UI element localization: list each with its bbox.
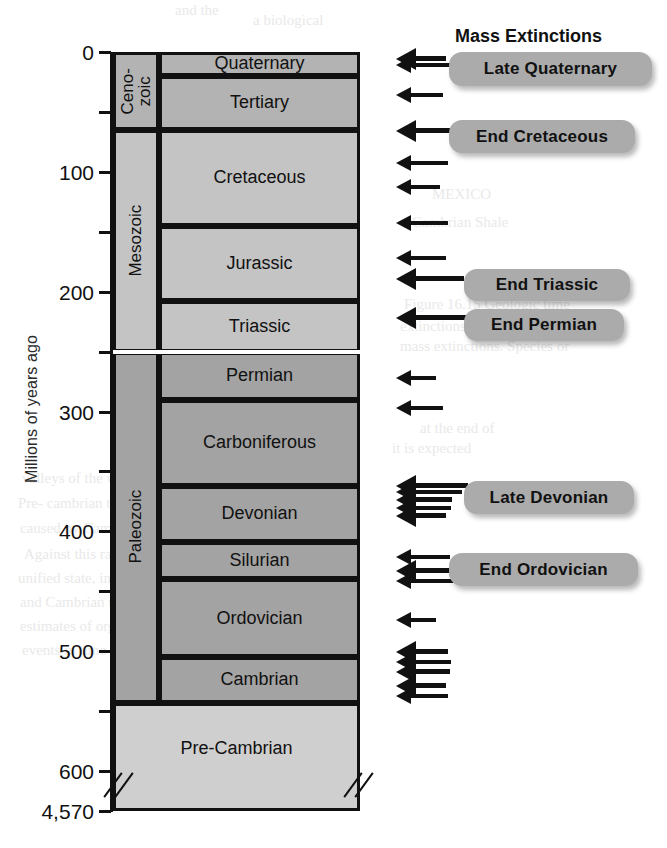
arrow-shaft	[414, 649, 448, 654]
page-title: Mass Extinctions	[455, 26, 602, 47]
arrow-head-icon	[396, 307, 416, 329]
tick-label: 400	[24, 520, 94, 544]
arrow-shaft	[409, 161, 448, 165]
period-cell: Triassic	[159, 301, 360, 351]
period-cell: Quaternary	[159, 52, 360, 76]
arrow-shaft	[409, 694, 448, 698]
tick-mark	[99, 710, 111, 713]
period-cell: Silurian	[159, 542, 360, 579]
period-cell: Cretaceous	[159, 130, 360, 226]
tick-mark	[99, 530, 111, 533]
tick-mark	[99, 351, 111, 354]
tick-label: 200	[24, 281, 94, 305]
extinction-label-pill: End Permian	[464, 309, 624, 341]
arrow-shaft	[409, 618, 436, 622]
era-label: Paleozoic	[127, 490, 144, 564]
tick-mark	[99, 810, 111, 813]
tick-label: 600	[24, 760, 94, 784]
period-cell: Tertiary	[159, 76, 360, 130]
arrow-shaft	[414, 276, 464, 281]
era-label: Ceno-zoic	[119, 68, 154, 114]
arrow-shaft	[409, 490, 462, 494]
period-cell: Carboniferous	[159, 400, 360, 486]
permian-triassic-gap	[113, 350, 360, 354]
arrow-shaft	[414, 56, 446, 61]
arrow-shaft	[409, 406, 443, 410]
arrow-head-icon	[396, 120, 416, 142]
era-cell: Paleozoic	[113, 352, 159, 703]
era-cell: Mesozoic	[113, 130, 159, 352]
arrow-shaft	[414, 669, 450, 674]
arrow-shaft	[409, 185, 440, 189]
arrow-shaft	[414, 683, 446, 688]
tick-mark	[99, 231, 111, 234]
tick-label: 100	[24, 161, 94, 185]
arrow-shaft	[409, 579, 454, 583]
period-cell: Jurassic	[159, 226, 360, 301]
tick-label: 500	[24, 640, 94, 664]
arrow-shaft	[409, 376, 436, 380]
extinction-label-pill: End Ordovician	[449, 553, 638, 586]
arrow-head-icon	[396, 268, 416, 290]
arrow-shaft	[409, 256, 446, 260]
arrow-shaft	[414, 497, 452, 502]
tick-label: 4,570	[16, 800, 94, 824]
tick-mark	[99, 590, 111, 593]
tick-mark	[99, 411, 111, 414]
tick-mark	[99, 770, 111, 773]
arrow-shaft	[414, 483, 468, 488]
tick-mark	[99, 51, 111, 54]
tick-mark	[99, 650, 111, 653]
arrow-head-icon	[396, 505, 416, 527]
period-cell: Ordovician	[159, 579, 360, 657]
tick-label: 0	[24, 41, 94, 65]
extinction-label-pill: End Triassic	[464, 269, 630, 301]
extinction-label-pill: Late Devonian	[464, 481, 634, 514]
precambrian-cell: Pre-Cambrian	[113, 703, 360, 811]
arrow-shaft	[409, 93, 443, 97]
extinction-label-pill: Late Quaternary	[449, 52, 652, 86]
era-cell: Ceno-zoic	[113, 52, 159, 130]
arrow-shaft	[414, 513, 446, 518]
tick-mark	[99, 291, 111, 294]
arrow-shaft	[409, 221, 448, 225]
tick-mark	[99, 111, 111, 114]
geologic-time-scale-figure: Mass Extinctions Millions of years ago 0…	[0, 0, 667, 848]
era-label: Mesozoic	[127, 205, 144, 277]
extinction-label-pill: End Cretaceous	[449, 120, 635, 153]
period-cell: Permian	[159, 352, 360, 400]
tick-mark	[99, 470, 111, 473]
period-cell: Cambrian	[159, 657, 360, 703]
period-cell: Devonian	[159, 486, 360, 542]
tick-label: 300	[24, 401, 94, 425]
arrow-shaft	[409, 555, 450, 559]
arrow-shaft	[409, 63, 451, 67]
tick-mark	[99, 171, 111, 174]
